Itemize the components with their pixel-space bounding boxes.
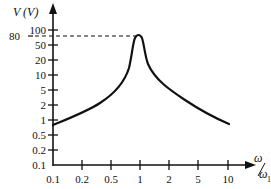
x-tick-label: 0.2	[75, 173, 89, 185]
x-tick-label: 10	[223, 173, 235, 185]
x-tick-label: 0.1	[46, 173, 60, 185]
x-axis-title: ω ω 1	[254, 151, 271, 184]
peak-value-label: 80	[9, 30, 21, 42]
x-axis-title-numerator: ω	[254, 151, 262, 165]
x-tick-label: 2	[166, 173, 172, 185]
x-tick-label: 1	[137, 173, 143, 185]
y-tick-label: 10	[35, 69, 47, 81]
y-tick-labels: 100 50 20 10 5 2 1 0.5 0.2 0.1	[30, 24, 47, 171]
resonance-curve	[53, 35, 229, 125]
y-axis-arrow-icon	[49, 3, 57, 14]
y-tick-label: 0.2	[32, 144, 46, 156]
y-tick-label: 100	[30, 24, 47, 36]
y-tick-label: 0.5	[32, 129, 46, 141]
x-tick-label: 5	[195, 173, 201, 185]
x-tick-label: 0.5	[104, 173, 118, 185]
y-tick-label: 2	[41, 99, 47, 111]
y-tick-label: 5	[41, 84, 47, 96]
y-tick-label: 20	[35, 54, 47, 66]
axes	[53, 10, 248, 166]
y-tick-label: 50	[35, 39, 47, 51]
x-tick-labels: 0.1 0.2 0.5 1 2 5 10	[46, 173, 234, 185]
y-axis-title: V (V)	[13, 5, 38, 19]
y-tick-label: 1	[41, 114, 47, 126]
y-tick-label: 0.1	[32, 159, 46, 171]
x-axis-title-subscript: 1	[267, 175, 271, 184]
resonance-chart: 100 50 20 10 5 2 1 0.5 0.2 0.1 0.1 0.2 0…	[0, 0, 271, 189]
